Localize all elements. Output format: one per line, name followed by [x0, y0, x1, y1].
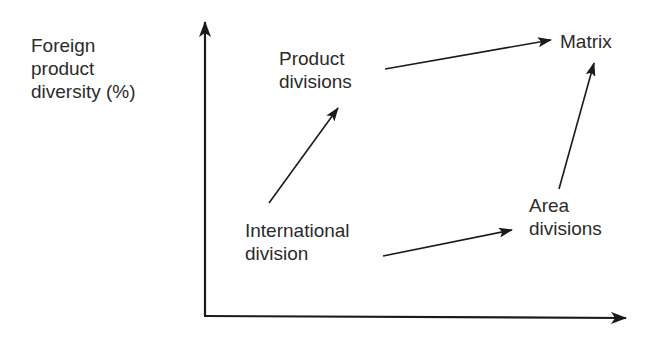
- y-axis-label: Foreign product diversity (%): [31, 34, 136, 103]
- node-product-divisions-line-1: Product: [279, 47, 352, 70]
- arrow-product-to-matrix: [385, 40, 551, 69]
- arrow-international-to-area: [383, 230, 512, 256]
- structure-evolution-diagram: Foreign product diversity (%) Product di…: [0, 0, 659, 344]
- node-area-divisions: Area divisions: [529, 194, 602, 240]
- y-axis-label-line-1: Foreign: [31, 34, 136, 57]
- node-international-division-line-2: division: [245, 242, 350, 265]
- node-area-divisions-line-1: Area: [529, 194, 602, 217]
- y-axis-label-line-2: product: [31, 57, 136, 80]
- node-matrix-line-1: Matrix: [560, 30, 612, 53]
- node-area-divisions-line-2: divisions: [529, 217, 602, 240]
- node-product-divisions: Product divisions: [279, 47, 352, 93]
- node-international-division: International division: [245, 219, 350, 265]
- node-international-division-line-1: International: [245, 219, 350, 242]
- arrow-international-to-product: [269, 108, 338, 203]
- y-axis-label-line-3: diversity (%): [31, 80, 136, 103]
- x-axis: [204, 316, 626, 318]
- arrow-area-to-matrix: [559, 63, 594, 189]
- node-product-divisions-line-2: divisions: [279, 70, 352, 93]
- node-matrix: Matrix: [560, 30, 612, 53]
